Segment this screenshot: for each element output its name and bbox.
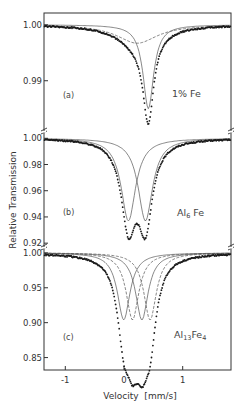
x-tick-label-1: 1 <box>180 375 185 385</box>
y-tick-label: 0.94 <box>23 212 42 222</box>
panel-c-sample-sub1: 13 <box>183 334 191 342</box>
y-tick-label: 0.99 <box>23 76 42 86</box>
y-tick-label: 0.96 <box>23 186 42 196</box>
y-tick-label: 0.90 <box>23 318 42 328</box>
y-tick-label: 1.00 <box>23 20 42 30</box>
y-tick-label: 1.00 <box>23 133 42 143</box>
fit-component-fit-doublet-1-line-a <box>44 253 230 320</box>
x-tick-label-0: 0 <box>121 375 126 385</box>
data-points-panel-c <box>44 253 232 388</box>
panel-c-sample-label: Al13Fe4 <box>174 329 206 342</box>
panel-a-sample-label: 1% Fe <box>172 88 201 99</box>
panel-b-sample-main: Al <box>177 207 186 218</box>
panel-b-sample-label: Al6 Fe <box>177 207 204 220</box>
panel-c-sample-main: Al <box>174 329 183 340</box>
x-axis-title: Velocity [mm/s] <box>103 391 176 401</box>
panel-b-sample-tail: Fe <box>190 207 204 218</box>
data-points-panel-a <box>44 25 232 125</box>
y-axis-title: Relative Transmission <box>8 151 18 248</box>
y-tick-label: 0.85 <box>23 353 42 363</box>
panel-c-sample-sub2: 4 <box>202 334 206 342</box>
panel-c-tag: (c) <box>63 333 74 342</box>
data-points-panel-b <box>44 138 232 240</box>
panel-c-sample-mid: Fe <box>191 329 202 340</box>
panel-a-tag: (a) <box>63 91 74 100</box>
y-tick-label: 0.92 <box>23 238 42 248</box>
y-tick-label: 0.98 <box>23 160 42 170</box>
break-gaps <box>42 131 233 249</box>
panel-b-tag: (b) <box>63 208 74 217</box>
y-tick-label: 1.00 <box>23 248 42 258</box>
fit-component-fit-doublet-1-line-b <box>44 253 230 319</box>
fit-component-fit-doublet-2-line-a <box>44 253 230 319</box>
mossbauer-chart: 1.000.991.000.980.960.940.921.000.950.90… <box>0 0 245 407</box>
axis-breaks <box>41 128 234 250</box>
x-tick-label-minus1: -1 <box>61 375 69 385</box>
y-tick-label: 0.95 <box>23 283 42 293</box>
fit-component-fit-doublet-2-line-b <box>44 253 230 319</box>
